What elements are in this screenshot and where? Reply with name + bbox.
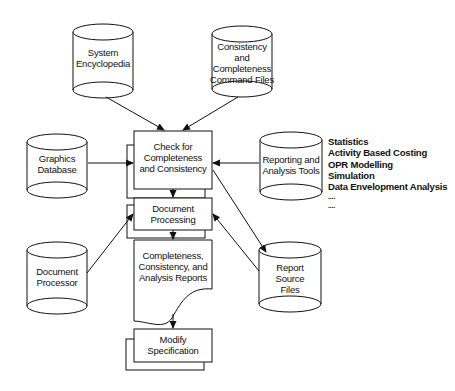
tool-list-item: OPR Modelling [328, 159, 447, 170]
label-line: Files [259, 284, 321, 295]
check-process-label: Check for Completeness and Consistency [134, 141, 212, 174]
label-line: System [73, 47, 133, 58]
label-line: Reporting and [258, 154, 324, 165]
label-line: Consistency [208, 41, 276, 52]
label-line: Graphics [27, 153, 87, 164]
label-line: Document [134, 203, 212, 214]
reporting-tools-label: Reporting and Analysis Tools [258, 154, 324, 176]
label-line: Source [259, 273, 321, 284]
label-line: Completeness [208, 63, 276, 74]
system-encyclopedia-label: System Encyclopedia [73, 47, 133, 69]
label-line: and Consistency [134, 163, 212, 174]
tool-list-item: .... [328, 192, 447, 201]
label-line: and [208, 52, 276, 63]
modify-specification-label: Modify Specification [134, 334, 212, 356]
tool-list-item: Activity Based Costing [328, 147, 447, 158]
graphics-database-label: Graphics Database [27, 153, 87, 175]
label-line: Completeness, [134, 250, 212, 261]
tool-list-item: Statistics [328, 136, 447, 147]
tool-list-item: Simulation [328, 170, 447, 181]
reports-label: Completeness, Consistency, and Analysis … [134, 250, 212, 283]
label-line: Document [27, 266, 87, 277]
label-line: Database [27, 164, 87, 175]
tool-list-item: Data Envelopment Analysis [328, 181, 447, 192]
label-line: Encyclopedia [73, 58, 133, 69]
label-line: Command Files [208, 74, 276, 85]
document-processing-label: Document Processing [134, 203, 212, 225]
tool-list: Statistics Activity Based Costing OPR Mo… [328, 136, 447, 210]
command-files-label: Consistency and Completeness Command Fil… [208, 41, 276, 85]
label-line: Modify [134, 334, 212, 345]
label-line: Processing [134, 214, 212, 225]
document-processor-label: Document Processor [27, 266, 87, 288]
label-line: Specification [134, 345, 212, 356]
tool-list-item: .... [328, 201, 447, 210]
label-line: Processor [27, 277, 87, 288]
label-line: Completeness [134, 152, 212, 163]
label-line: Report [259, 262, 321, 273]
label-line: Analysis Reports [134, 272, 212, 283]
label-line: Analysis Tools [258, 165, 324, 176]
label-line: Check for [134, 141, 212, 152]
label-line: Consistency, and [134, 261, 212, 272]
report-source-files-label: Report Source Files [259, 262, 321, 295]
